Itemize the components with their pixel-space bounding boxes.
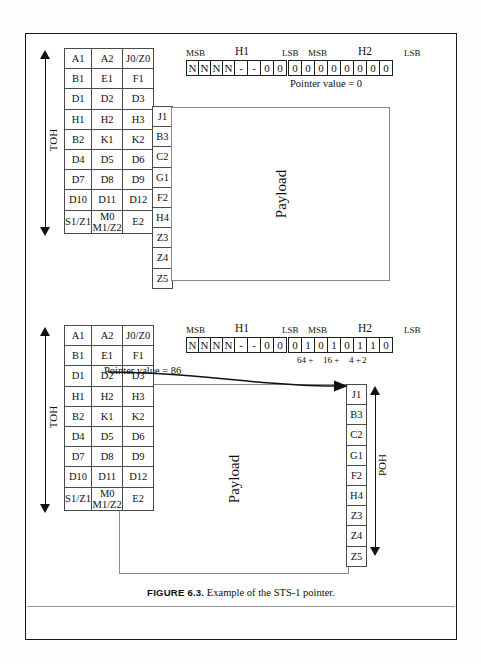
toh-row: S1/Z1M0M1/Z2E2 [65,487,154,510]
toh-row: D4D5D6 [65,149,154,169]
toh-row: D4D5D6 [65,426,154,446]
poh-row: Z5 [347,546,367,566]
toh-cell: E2 [123,487,154,510]
toh-cell: D8 [92,170,123,190]
poh-cell: C2 [153,147,173,167]
toh-cell: D7 [65,447,92,467]
poh-row: J1 [153,107,173,127]
toh-cell: D3 [123,89,154,109]
poh-cell: G1 [347,445,367,465]
poh-cell: Z5 [153,268,173,288]
poh-cell: Z4 [153,248,173,268]
toh-cell-line: M1/Z2 [92,222,122,233]
poh-cell: C2 [347,425,367,445]
payload-box-top: Payload [171,107,390,281]
toh-cell: D5 [92,149,123,169]
toh-cell-line: M0 [92,211,122,222]
toh-cell: D11 [92,467,123,487]
poh-cell: H4 [347,485,367,505]
pointer-value-top: Pointer value = 0 [290,78,362,89]
poh-cell: B3 [347,405,367,425]
msb-label-h1: MSB [186,48,205,58]
msb-label-h2: MSB [308,48,327,58]
pointer-bit-cell: - [234,60,248,76]
toh-cell: D2 [92,89,123,109]
poh-row: G1 [153,167,173,187]
poh-row: H4 [347,485,367,505]
pointer-bit-cell: 0 [273,337,287,353]
poh-row: H4 [153,207,173,227]
pointer-labels-top: MSB H1 LSB MSB H2 LSB [186,47,393,60]
poh-row: C2 [347,425,367,445]
toh-cell: D9 [123,447,154,467]
pointer-bit-cell: 0 [273,60,287,76]
toh-cell: D4 [65,149,92,169]
pointer-value-row-bottom: Pointer value = 86 [186,366,393,380]
toh-cell: S1/Z1 [65,210,92,233]
pointer-bit-cell: 0 [288,337,302,353]
toh-row: D10D11D12 [65,467,154,487]
pointer-bit-cell: 0 [327,60,341,76]
toh-cell: E2 [123,210,154,233]
pointer-group-top: MSB H1 LSB MSB H2 LSB NNNN--0000000000 P… [186,47,393,90]
poh-row: G1 [347,445,367,465]
lsb-label-h1: LSB [282,48,299,58]
poh-cell: F2 [347,465,367,485]
toh-cell: D5 [92,426,123,446]
pointer-bit-cell: 0 [379,60,393,76]
toh-row: D10D11D12 [65,190,154,210]
arrow-head-down-icon [40,227,50,236]
toh-cell: K2 [123,406,154,426]
payload-label-bottom: Payload [226,455,243,503]
toh-cell: S1/Z1 [65,487,92,510]
poh-row: Z3 [153,228,173,248]
toh-cell: H1 [65,109,92,129]
pointer-bit-cell: 0 [353,60,367,76]
poh-row: B3 [347,405,367,425]
pointer-bit-cell: 0 [288,60,302,76]
toh-cell: E1 [92,69,123,89]
toh-cell: K2 [123,129,154,149]
toh-grid-top: A1A2J0/Z0B1E1F1D1D2D3H1H2H3B2K1K2D4D5D6D… [64,48,154,234]
toh-cell: D12 [123,190,154,210]
toh-cell: A1 [65,326,92,346]
toh-row: B1E1F1 [65,69,154,89]
pointer-weights-bottom: 64 +16 +4 +2 [186,353,393,366]
toh-cell: D4 [65,426,92,446]
toh-cell: B1 [65,346,92,366]
pointer-bit-cell: 0 [366,60,380,76]
poh-cell: H4 [153,207,173,227]
pointer-bit-cell: - [247,337,261,353]
toh-cell-line: M1/Z2 [92,499,122,510]
poh-row: Z3 [347,506,367,526]
toh-grid-bottom-body: A1A2J0/Z0B1E1F1D1D2D3H1H2H3B2K1K2D4D5D6D… [65,326,154,511]
pointer-bit-weight: 4 + [349,355,361,365]
pointer-bit-cell: 0 [340,337,354,353]
toh-label-bottom: TOH [47,397,59,437]
pointer-bit-cell: - [234,337,248,353]
pointer-bit-cell: 0 [260,60,274,76]
arrow-head-down-icon [40,504,50,513]
lsb-label-h2: LSB [404,48,421,58]
pointer-bits-top: NNNN--0000000000 [186,60,393,76]
poh-row: B3 [153,127,173,147]
toh-cell: M0M1/Z2 [92,487,123,510]
toh-cell: B1 [65,69,92,89]
poh-cell: Z4 [347,526,367,546]
toh-cell: A2 [92,326,123,346]
pointer-bit-weight: 2 [362,355,367,365]
pointer-bit-weight: 16 + [323,355,339,365]
toh-row: A1A2J0/Z0 [65,326,154,346]
toh-cell: D9 [123,170,154,190]
toh-row: B2K1K2 [65,129,154,149]
toh-cell: D12 [123,467,154,487]
pointer-value-bottom: Pointer value = 86 [104,365,181,376]
toh-cell: F1 [123,69,154,89]
toh-grid-top-body: A1A2J0/Z0B1E1F1D1D2D3H1H2H3B2K1K2D4D5D6D… [65,49,154,234]
toh-cell: J0/Z0 [123,326,154,346]
toh-row: H1H2H3 [65,109,154,129]
poh-column-bottom-body: J1B3C2G1F2H4Z3Z4Z5 [347,385,367,567]
msb-label-h2: MSB [308,325,327,335]
pointer-bit-cell: 1 [301,337,315,353]
toh-row: D1D2D3 [65,89,154,109]
